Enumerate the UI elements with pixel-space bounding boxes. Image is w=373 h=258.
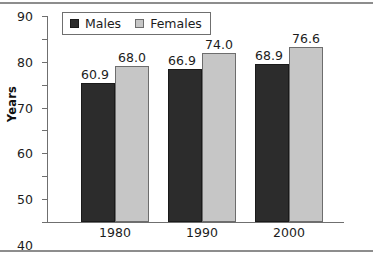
bar-females-1980[interactable]: 68.0 <box>115 66 149 222</box>
y-tick: 80 <box>42 39 47 40</box>
bar-group: 60.968.01980 <box>81 16 149 222</box>
y-tick: 0 <box>42 222 47 223</box>
x-tick-label-2000: 2000 <box>273 225 305 240</box>
chart-legend: MalesFemales <box>62 12 211 35</box>
y-axis-line <box>47 16 48 223</box>
plot-area: 0102030405060708090 60.968.0198066.974.0… <box>47 16 344 223</box>
bottom-divider <box>0 250 373 252</box>
x-tick-label-1980: 1980 <box>99 225 131 240</box>
y-tick: 30 <box>42 153 47 154</box>
bar-group: 66.974.01990 <box>168 16 236 222</box>
y-tick-label: 50 <box>17 192 33 207</box>
y-tick-label: 40 <box>17 237 33 252</box>
bar-value-label: 60.9 <box>81 67 109 82</box>
bar-males-2000[interactable]: 68.9 <box>255 64 289 222</box>
chart-figure: Years 0102030405060708090 60.968.0198066… <box>0 0 373 258</box>
y-tick-label: 90 <box>17 9 33 24</box>
y-tick-label: 80 <box>17 54 33 69</box>
bar-group: 68.976.62000 <box>255 16 323 222</box>
x-tick-label-1990: 1990 <box>186 225 218 240</box>
bar-value-label: 76.6 <box>292 31 320 46</box>
y-tick: 90 <box>42 16 47 17</box>
y-tick: 50 <box>42 108 47 109</box>
bar-value-label: 66.9 <box>168 53 196 68</box>
x-axis-line <box>47 222 344 223</box>
bar-value-label: 68.9 <box>255 48 283 63</box>
legend-entry-females[interactable]: Females <box>135 16 202 31</box>
bar-females-2000[interactable]: 76.6 <box>289 47 323 222</box>
legend-label: Males <box>85 16 121 31</box>
females-swatch-icon <box>135 19 144 28</box>
bar-females-1990[interactable]: 74.0 <box>202 53 236 222</box>
legend-label: Females <box>150 16 202 31</box>
males-swatch-icon <box>70 19 79 28</box>
y-tick-label: 60 <box>17 146 33 161</box>
y-tick: 20 <box>42 176 47 177</box>
bar-value-label: 68.0 <box>118 50 146 65</box>
top-divider <box>0 2 373 4</box>
legend-entry-males[interactable]: Males <box>70 16 121 31</box>
y-tick: 40 <box>42 130 47 131</box>
y-tick: 70 <box>42 62 47 63</box>
y-tick: 10 <box>42 199 47 200</box>
bar-males-1990[interactable]: 66.9 <box>168 69 202 222</box>
bar-value-label: 74.0 <box>205 37 233 52</box>
bar-males-1980[interactable]: 60.9 <box>81 83 115 222</box>
y-tick-label: 70 <box>17 100 33 115</box>
y-tick: 60 <box>42 85 47 86</box>
